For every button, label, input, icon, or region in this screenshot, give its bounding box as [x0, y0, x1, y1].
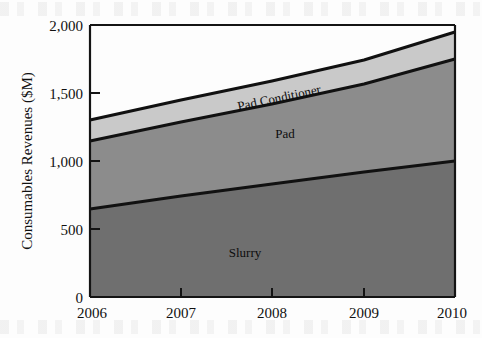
x-tick-label-2009: 2009: [349, 305, 379, 321]
x-tick-label-2008: 2008: [257, 305, 287, 321]
series-label-slurry: Slurry: [229, 245, 262, 260]
y-tick-labels: 2,000 1,500 1,000 500 0: [49, 18, 83, 306]
y-axis-title: Consumables Revenues ($M): [19, 72, 36, 249]
y-tick-label-500: 500: [61, 222, 84, 238]
plot-area: [90, 32, 455, 297]
y-tick-label-1000: 1,000: [49, 154, 83, 170]
x-tick-label-2006: 2006: [77, 305, 108, 321]
y-tick-label-0: 0: [76, 290, 84, 306]
x-tick-label-2010: 2010: [437, 305, 467, 321]
stacked-area-chart: 2,000 1,500 1,000 500 0 2006 2007 2008 2…: [0, 0, 482, 338]
chart-figure: 2,000 1,500 1,000 500 0 2006 2007 2008 2…: [0, 0, 482, 338]
series-label-pad: Pad: [275, 126, 295, 141]
y-tick-label-2000: 2,000: [49, 18, 83, 34]
y-tick-label-1500: 1,500: [49, 86, 83, 102]
x-tick-labels: 2006 2007 2008 2009 2010: [77, 305, 467, 321]
x-tick-label-2007: 2007: [166, 305, 197, 321]
